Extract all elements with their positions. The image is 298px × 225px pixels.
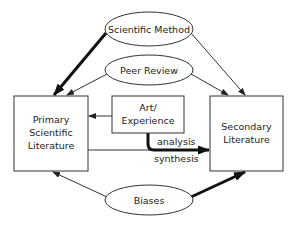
node-peer-review-label: Peer Review [120,65,178,76]
arrow-peerreview-to-secondary [191,74,228,95]
primary-line2: Scientific [29,127,72,138]
primary-line3: Literature [28,140,75,151]
secondary-line2: Literature [223,134,270,145]
node-secondary-literature: Secondary Literature [210,96,283,171]
node-art-experience: Art/ Experience [112,96,184,133]
edge-label-analysis: analysis [157,136,196,147]
art-line2: Experience [122,115,175,126]
diagram-canvas: Scientific Method Peer Review Biases Pri… [0,0,298,225]
node-biases: Biases [105,185,193,215]
art-line1: Art/ [139,102,157,113]
edge-label-synthesis: synthesis [154,153,199,164]
arrow-biases-to-secondary [191,172,245,197]
node-scientific-method-label: Scientific Method [108,24,190,35]
node-scientific-method: Scientific Method [105,12,193,46]
arrow-biases-to-primary [53,172,107,197]
secondary-line1: Secondary [221,121,272,132]
primary-line1: Primary [33,114,70,125]
node-biases-label: Biases [134,195,165,206]
arrow-scimethod-to-secondary [191,33,245,95]
arrow-scimethod-to-primary [54,33,106,95]
node-primary-literature: Primary Scientific Literature [14,96,88,171]
node-peer-review: Peer Review [105,55,193,85]
arrow-peerreview-to-primary [67,74,107,95]
